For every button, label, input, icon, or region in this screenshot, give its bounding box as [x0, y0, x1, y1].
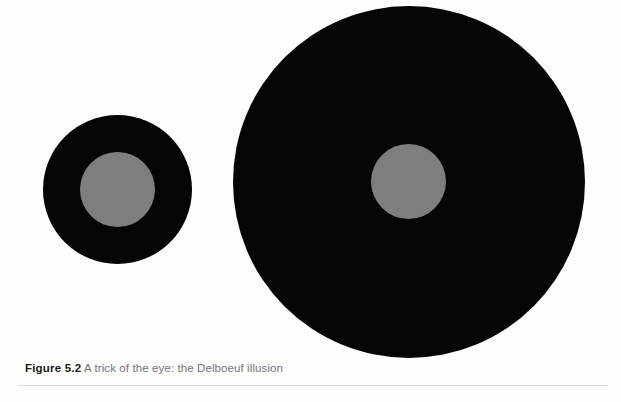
figure-plate: [0, 0, 621, 360]
figure-caption: Figure 5.2 A trick of the eye: the Delbo…: [25, 361, 605, 376]
small-inner-disc-circle: [80, 152, 155, 227]
figure-page: Figure 5.2 A trick of the eye: the Delbo…: [0, 0, 621, 402]
figure-caption-label: Figure 5.2: [25, 362, 81, 374]
figure-caption-text: A trick of the eye: the Delboeuf illusio…: [81, 362, 283, 374]
caption-divider-rule: [18, 385, 608, 386]
large-inner-disc-circle: [371, 144, 446, 219]
